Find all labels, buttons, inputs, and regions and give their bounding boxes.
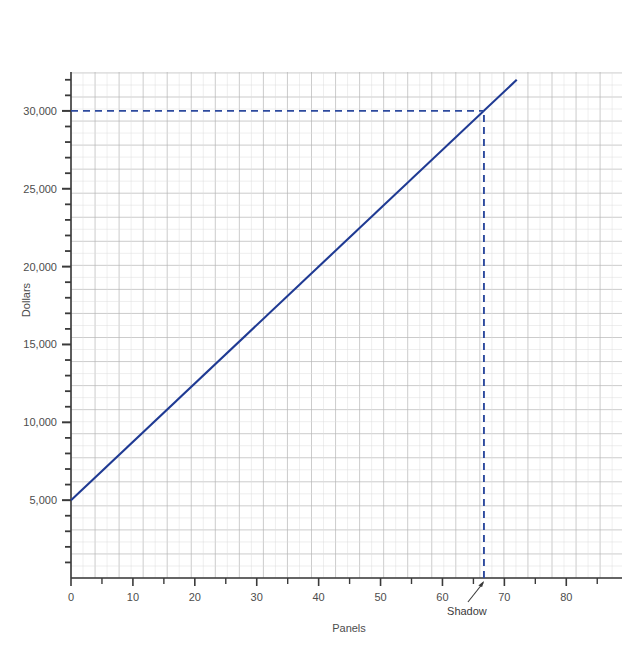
y-tick-label: 25,000 <box>23 183 57 195</box>
x-tick-label: 40 <box>313 591 325 603</box>
x-tick-label: 20 <box>189 591 201 603</box>
y-axis-title: Dollars <box>20 282 32 317</box>
x-tick-label: 50 <box>374 591 386 603</box>
plot-area-background <box>71 72 622 578</box>
y-tick-label: 5,000 <box>29 494 57 506</box>
x-tick-label: 30 <box>251 591 263 603</box>
x-axis-title: Panels <box>332 622 366 634</box>
y-tick-label: 20,000 <box>23 261 57 273</box>
x-tick-label: 0 <box>68 591 74 603</box>
x-tick-label: 10 <box>127 591 139 603</box>
line-chart-svg: 5,00010,00015,00020,00025,00030,000 0102… <box>0 0 643 654</box>
x-tick-label: 80 <box>560 591 572 603</box>
chart-container: 5,00010,00015,00020,00025,00030,000 0102… <box>0 0 643 654</box>
x-tick-label: 60 <box>436 591 448 603</box>
shadow-annotation-label: Shadow <box>447 605 487 617</box>
x-tick-label: 70 <box>498 591 510 603</box>
y-tick-label: 15,000 <box>23 338 57 350</box>
y-tick-label: 10,000 <box>23 416 57 428</box>
y-tick-label: 30,000 <box>23 105 57 117</box>
